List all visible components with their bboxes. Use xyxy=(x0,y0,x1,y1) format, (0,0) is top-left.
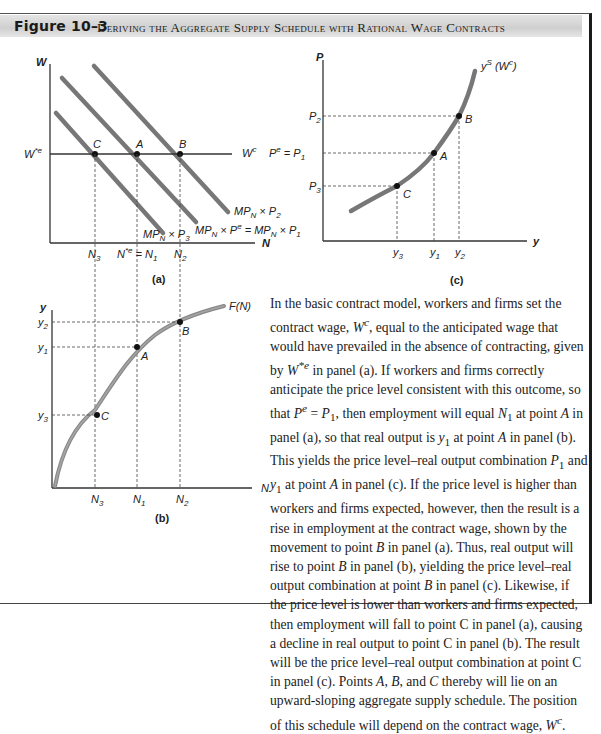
tick-y3-b: y3 xyxy=(37,409,49,424)
curve-mpn-p1 xyxy=(62,78,196,222)
point-a-c xyxy=(431,150,437,156)
point-label-c-c: C xyxy=(403,188,411,200)
caption-text: = xyxy=(307,406,321,421)
tick-n3-b: N3 xyxy=(91,493,104,508)
caption-var: A xyxy=(561,406,569,421)
panel-b-y-label: y xyxy=(39,301,47,313)
caption-var: P xyxy=(550,453,558,468)
caption-text: . xyxy=(562,717,565,732)
caption-text: at point xyxy=(450,430,498,445)
tick-n1-b: N1 xyxy=(133,493,145,508)
panel-a-caption: (a) xyxy=(152,273,166,285)
wc-label: Wc xyxy=(242,145,256,159)
tick-p3: P3 xyxy=(309,180,321,195)
tick-pe-p1: Pe = P1 xyxy=(269,145,305,162)
curve-production-function-inner xyxy=(55,306,224,486)
label-mpn-p2: MPN × P2 xyxy=(234,205,281,220)
point-label-c-b: C xyxy=(101,410,109,422)
caption-var: W xyxy=(353,320,364,335)
caption-var: W xyxy=(287,363,298,378)
caption-var: B xyxy=(338,559,346,574)
panel-a-x-label: N xyxy=(262,237,271,249)
tick-y1-b: y1 xyxy=(37,341,48,356)
point-label-a: A xyxy=(135,138,143,150)
caption-var: P xyxy=(322,406,330,421)
caption-text: at point xyxy=(513,406,561,421)
point-b-c xyxy=(456,113,462,119)
caption-var: P xyxy=(294,406,302,421)
panel-c: P y B A C yS (Wc) P2 Pe = P1 P3 y3 y1 y2… xyxy=(269,51,540,286)
tick-y2-c: y2 xyxy=(454,246,466,261)
caption-sup: *e xyxy=(298,359,309,371)
tick-y3-c: y3 xyxy=(392,246,404,261)
tick-n2-b: N2 xyxy=(176,493,189,508)
panel-b-caption: (b) xyxy=(155,512,169,524)
panel-c-caption: (c) xyxy=(450,274,464,286)
caption-text: at point xyxy=(282,477,330,492)
caption-text: in panel (c). Likewise, if the price lev… xyxy=(270,578,582,689)
curve-aggregate-supply xyxy=(351,71,475,211)
point-label-a-b: A xyxy=(140,350,148,362)
panel-b-x-label: N xyxy=(261,482,269,494)
curve-mpn-p2 xyxy=(94,66,228,212)
panel-c-x-label: y xyxy=(532,235,540,247)
panel-a-y-label: W xyxy=(36,56,48,68)
point-c-c xyxy=(394,183,400,189)
caption-var: B xyxy=(391,674,399,689)
panel-a: W N W*e Wc C A B MPN × P2 MPN × Pe = MPN… xyxy=(24,56,301,285)
caption-text: , and xyxy=(400,674,430,689)
panel-c-y-label: P xyxy=(316,51,324,63)
tick-p2: P2 xyxy=(309,110,321,125)
panel-b: y N B A C F(N) y2 y1 y3 N3 N1 N2 (b) xyxy=(37,300,269,524)
point-label-c: C xyxy=(93,138,101,150)
label-mpn-pe: MPN × Pe = MPN × P1 xyxy=(195,222,301,239)
tick-n3-a: N3 xyxy=(88,248,101,263)
tick-y2-b: y2 xyxy=(37,316,49,331)
caption-text: , then employment will equal xyxy=(336,406,498,421)
point-c-b xyxy=(94,412,100,418)
label-mpn-p3: MPN × P3 xyxy=(143,228,190,243)
point-label-b-c: B xyxy=(465,113,472,125)
tick-n2-a: N2 xyxy=(174,248,187,263)
caption-var: N xyxy=(498,406,507,421)
caption-text: and xyxy=(564,453,587,468)
caption-var: A xyxy=(330,477,338,492)
label-f-n: F(N) xyxy=(229,300,251,312)
w-star-e-label: W*e xyxy=(24,146,43,160)
caption-var: W xyxy=(546,717,557,732)
tick-y1-c: y1 xyxy=(429,246,440,261)
point-label-b-b: B xyxy=(182,325,189,337)
point-a-b xyxy=(134,344,140,350)
label-ys-wc: yS (Wc) xyxy=(480,58,517,72)
point-label-b: B xyxy=(179,138,186,150)
figure-caption: In the basic contract model, workers and… xyxy=(270,294,588,734)
curve-production-function xyxy=(55,306,224,486)
point-label-a-c: A xyxy=(439,150,447,162)
